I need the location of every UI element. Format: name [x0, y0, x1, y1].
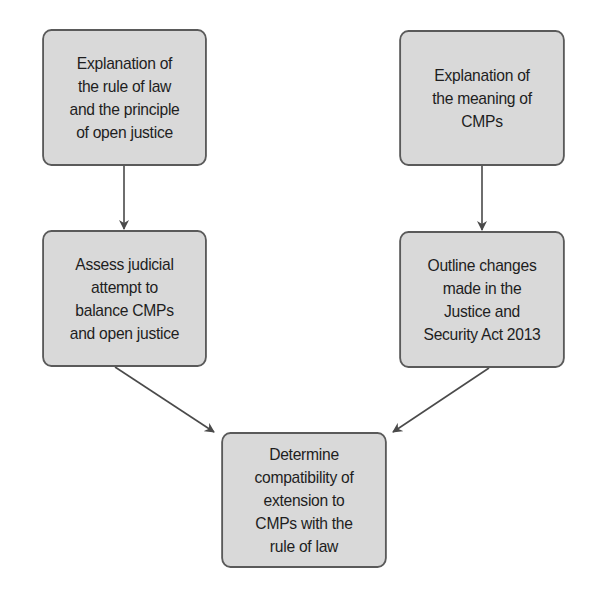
node-label: Explanation of the rule of law and the p…: [64, 52, 185, 144]
node-label: Outline changes made in the Justice and …: [418, 254, 546, 346]
node-assess-judicial-attempt: Assess judicial attempt to balance CMPs …: [42, 230, 207, 367]
node-rule-of-law-open-justice: Explanation of the rule of law and the p…: [42, 29, 207, 166]
node-label: Assess judicial attempt to balance CMPs …: [64, 253, 185, 345]
node-label: Explanation of the meaning of CMPs: [427, 64, 538, 133]
node-determine-compatibility: Determine compatibility of extension to …: [221, 432, 387, 568]
arrow-n3-to-n5: [115, 367, 214, 432]
node-meaning-of-cmps: Explanation of the meaning of CMPs: [399, 30, 565, 166]
node-justice-security-act-changes: Outline changes made in the Justice and …: [399, 231, 565, 368]
node-label: Determine compatibility of extension to …: [249, 443, 359, 558]
arrow-n4-to-n5: [393, 368, 489, 432]
flowchart: Explanation of the rule of law and the p…: [0, 0, 596, 597]
